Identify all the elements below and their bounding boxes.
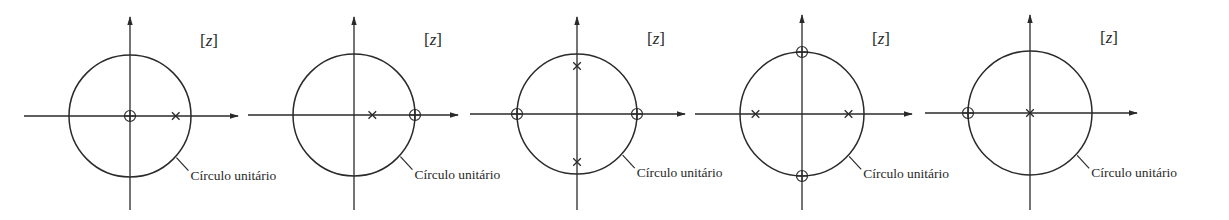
zero-marker	[797, 171, 808, 182]
z-plane-label: [z]	[200, 31, 218, 50]
diagram-group: [z]Círculo unitário[z]Círculo unitário[z…	[24, 15, 1177, 210]
z-plane-label: [z]	[872, 29, 890, 48]
zero-marker	[410, 110, 421, 121]
unit-circle-label: Círculo unitário	[190, 168, 276, 183]
pole-zero-diagrams-svg: [z]Círculo unitário[z]Círculo unitário[z…	[0, 0, 1229, 220]
pole-zero-diagram-4: [z]Círculo unitário	[695, 15, 949, 210]
unit-circle-leader-line	[400, 157, 412, 170]
zero-marker	[512, 109, 523, 120]
unit-circle-label: Círculo unitário	[414, 167, 500, 182]
zero-marker	[797, 47, 808, 58]
pole-zero-diagram-3: [z]Círculo unitário	[470, 17, 723, 210]
pole-zero-diagram-2: [z]Círculo unitário	[248, 17, 501, 210]
z-plane-label: [z]	[647, 29, 665, 48]
unit-circle-leader-line	[176, 158, 188, 171]
unit-circle-label: Círculo unitário	[863, 166, 949, 181]
unit-circle-leader-line	[849, 156, 861, 169]
unit-circle-leader-line	[623, 155, 635, 168]
unit-circle-label: Círculo unitário	[1091, 165, 1177, 180]
zero-marker	[963, 108, 974, 119]
z-plane-label: [z]	[1100, 28, 1118, 47]
zero-marker	[125, 111, 136, 122]
z-plane-label: [z]	[424, 30, 442, 49]
pole-zero-diagram-5: [z]Círculo unitário	[925, 15, 1177, 210]
unit-circle-label: Círculo unitário	[637, 165, 723, 180]
zero-marker	[632, 109, 643, 120]
unit-circle-leader-line	[1077, 155, 1089, 168]
pole-zero-diagram-1: [z]Círculo unitário	[24, 17, 277, 210]
pole-zero-figure: [z]Círculo unitário[z]Círculo unitário[z…	[0, 0, 1229, 220]
